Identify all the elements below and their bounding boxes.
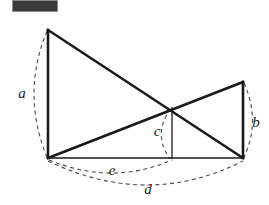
measure-arc-a bbox=[34, 31, 47, 157]
crossed-ladders-figure: a b c e d bbox=[0, 0, 269, 205]
measure-arc-c bbox=[161, 109, 171, 159]
label-a: a bbox=[18, 85, 26, 101]
label-c: c bbox=[154, 123, 161, 139]
diagram-canvas: a b c e d bbox=[0, 0, 269, 205]
label-e: e bbox=[109, 162, 116, 178]
label-d: d bbox=[144, 181, 152, 197]
label-b: b bbox=[252, 114, 260, 130]
measure-arc-b bbox=[244, 83, 253, 157]
